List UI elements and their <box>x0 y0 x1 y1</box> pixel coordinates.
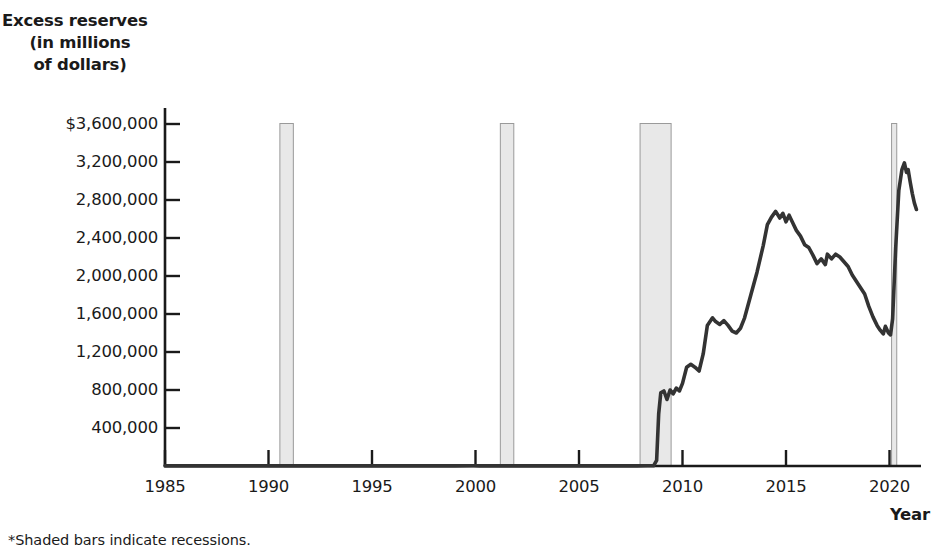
excess-reserves-line <box>165 163 916 466</box>
recession-bar <box>640 124 671 467</box>
axis-lines-group <box>164 108 921 466</box>
recession-bar <box>500 124 513 467</box>
recession-bars-group <box>280 124 897 467</box>
chart-figure: Excess reserves (in millions of dollars)… <box>0 0 938 557</box>
data-line-group <box>165 163 916 466</box>
recession-bar <box>280 124 293 467</box>
axis-ticks-group <box>165 124 890 466</box>
plot-area <box>0 0 938 557</box>
